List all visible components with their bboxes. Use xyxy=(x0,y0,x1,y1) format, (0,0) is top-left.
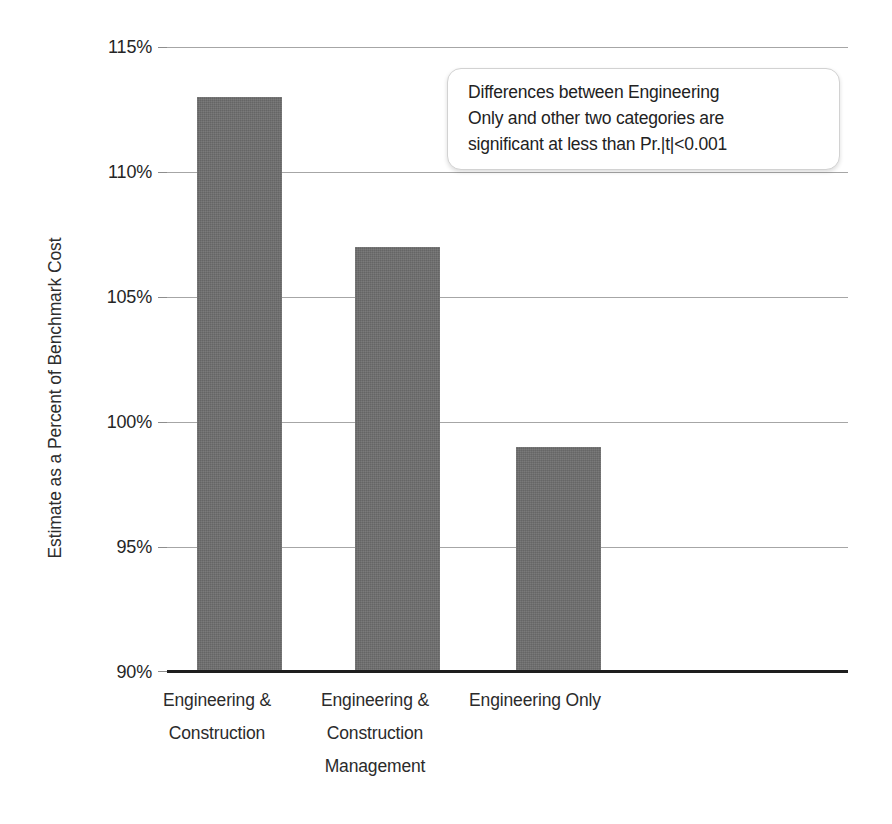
significance-annotation-box: Differences between Engineering Only and… xyxy=(447,68,840,170)
x-tick-label-line: Construction xyxy=(280,717,470,750)
x-tick-label-line: Management xyxy=(280,750,470,783)
x-axis-line xyxy=(167,670,848,673)
y-tick-label-110: 110% xyxy=(72,162,152,183)
bar-chart-figure: Estimate as a Percent of Benchmark Cost … xyxy=(0,0,892,824)
annotation-line: Differences between Engineering xyxy=(468,79,823,105)
bar-engineering-only xyxy=(516,447,601,672)
y-tick-label-100: 100% xyxy=(72,412,152,433)
y-axis-tick-labels: 115% 110% 105% 100% 95% 90% xyxy=(72,47,152,672)
annotation-line: significant at less than Pr.|t|<0.001 xyxy=(468,131,823,157)
x-tick-label-engineering-only: Engineering Only xyxy=(440,684,630,717)
y-tick-label-105: 105% xyxy=(72,287,152,308)
x-tick-label-line: Engineering Only xyxy=(440,684,630,717)
y-tick-label-95: 95% xyxy=(72,537,152,558)
y-tick-label-115: 115% xyxy=(72,37,152,58)
y-axis-title: Estimate as a Percent of Benchmark Cost xyxy=(40,168,70,628)
bar-engineering-and-construction xyxy=(197,97,282,672)
y-tick-label-90: 90% xyxy=(72,662,152,683)
bar-engineering-and-construction-management xyxy=(355,247,440,672)
gridline-115 xyxy=(167,47,848,48)
annotation-line: Only and other two categories are xyxy=(468,105,823,131)
